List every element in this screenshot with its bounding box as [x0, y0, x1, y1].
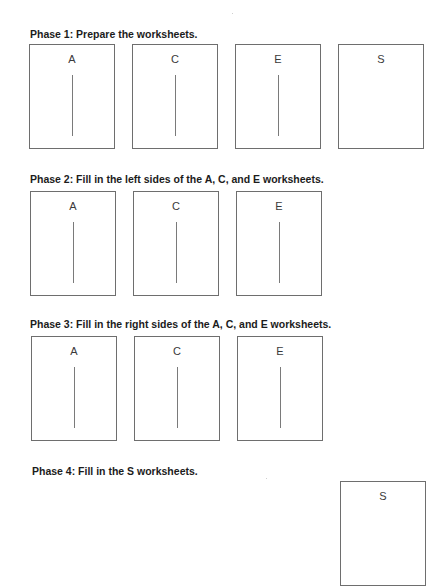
scan-speck: [266, 478, 267, 479]
phase-3-title: Phase 3: Fill in the right sides of the …: [30, 318, 331, 330]
sheet-label: E: [236, 53, 320, 65]
phase-1-title: Phase 1: Prepare the worksheets.: [30, 28, 198, 40]
phase-2-title: Phase 2: Fill in the left sides of the A…: [30, 173, 324, 185]
sheet-divider-line: [175, 75, 176, 136]
phase-1-sheet-a: A: [29, 44, 115, 149]
phase-2-sheet-c: C: [133, 191, 219, 296]
sheet-label: A: [31, 200, 115, 212]
sheet-divider-line: [176, 222, 177, 283]
sheet-label: C: [135, 345, 219, 357]
phase-3-sheet-e: E: [237, 336, 323, 441]
sheet-label: A: [30, 53, 114, 65]
sheet-label: S: [339, 53, 423, 65]
sheet-divider-line: [72, 75, 73, 136]
phase-3-sheet-a: A: [31, 336, 117, 441]
phase-2-sheet-a: A: [30, 191, 116, 296]
sheet-divider-line: [279, 222, 280, 283]
sheet-label: E: [238, 345, 322, 357]
phase-3-sheet-c: C: [134, 336, 220, 441]
sheet-label: C: [133, 53, 217, 65]
phase-1-sheet-c: C: [132, 44, 218, 149]
sheet-label: C: [134, 200, 218, 212]
phase-4-title: Phase 4: Fill in the S worksheets.: [32, 465, 198, 477]
sheet-label: E: [237, 200, 321, 212]
phase-1-sheet-e: E: [235, 44, 321, 149]
sheet-label: A: [32, 345, 116, 357]
sheet-divider-line: [278, 75, 279, 136]
phase-4-sheet-s: S: [340, 481, 426, 586]
sheet-divider-line: [73, 222, 74, 283]
phase-2-sheet-e: E: [236, 191, 322, 296]
sheet-divider-line: [280, 367, 281, 428]
scan-speck: [232, 13, 233, 14]
phase-1-sheet-s: S: [338, 44, 424, 149]
sheet-label: S: [341, 490, 425, 502]
sheet-divider-line: [74, 367, 75, 428]
sheet-divider-line: [177, 367, 178, 428]
